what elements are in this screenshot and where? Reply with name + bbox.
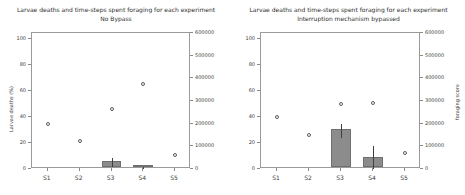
chart-title-block-left: Larvae deaths and time-steps spent forag…	[0, 5, 232, 23]
plot-area-left	[31, 32, 190, 168]
data-point-s1	[275, 115, 279, 119]
x-tick-label-s4: S4	[362, 174, 382, 181]
y-tick-mark-left	[28, 116, 31, 117]
y-tick-label-right-200000: 200000	[195, 121, 214, 126]
y-tick-mark-right	[190, 145, 193, 146]
y-tick-mark-left	[28, 90, 31, 91]
figure-root: Larvae deaths and time-steps spent forag…	[0, 0, 465, 195]
x-tick-label-s5: S5	[164, 174, 184, 181]
y-tick-mark-right	[190, 32, 193, 33]
x-tick-label-s1: S1	[37, 174, 57, 181]
y-tick-label-right-200000: 200000	[425, 121, 444, 126]
y-tick-mark-right	[420, 55, 423, 56]
data-point-s4	[141, 82, 145, 86]
y-tick-label-right-300000: 300000	[425, 98, 444, 103]
y-tick-label-right-400000: 400000	[195, 75, 214, 80]
y-tick-label-left-40: 40	[3, 114, 26, 119]
x-tick-mark	[79, 168, 80, 171]
chart-title-block-right: Larvae deaths and time-steps spent forag…	[232, 5, 465, 23]
error-bar-s4	[373, 146, 374, 169]
y-tick-label-left-100: 100	[232, 36, 255, 41]
data-point-s3	[339, 102, 343, 106]
y-tick-label-left-0: 0	[232, 166, 255, 171]
chart-subtitle-right: Interruption mechanism bypassed	[232, 14, 465, 23]
x-tick-mark	[174, 168, 175, 171]
y-tick-mark-right	[190, 123, 193, 124]
y-tick-mark-right	[420, 145, 423, 146]
y-tick-mark-right	[190, 77, 193, 78]
y-tick-mark-left	[257, 90, 260, 91]
y-tick-label-right-100000: 100000	[195, 143, 214, 148]
error-bar-s4	[143, 167, 144, 169]
data-point-s2	[307, 133, 311, 137]
error-bar-s3	[112, 158, 113, 166]
y-tick-label-right-500000: 500000	[195, 53, 214, 58]
x-tick-mark	[142, 168, 143, 171]
y-tick-label-right-500000: 500000	[425, 53, 444, 58]
plot-inner-left	[32, 33, 189, 167]
plot-inner-right	[261, 33, 419, 167]
x-tick-mark	[276, 168, 277, 171]
y-tick-label-left-60: 60	[3, 88, 26, 93]
chart-panel-no-bypass: Larvae deaths and time-steps spent forag…	[0, 0, 232, 195]
y-tick-mark-left	[257, 168, 260, 169]
y2-axis-label-right: foraging score	[454, 84, 460, 120]
y-tick-label-right-600000: 600000	[195, 30, 214, 35]
y-tick-mark-left	[28, 38, 31, 39]
y-tick-label-left-0: 0	[3, 166, 26, 171]
data-point-s3	[110, 107, 114, 111]
y-tick-mark-left	[257, 38, 260, 39]
y-tick-mark-right	[190, 55, 193, 56]
y-tick-mark-right	[420, 100, 423, 101]
plot-area-right	[260, 32, 420, 168]
y-tick-mark-right	[190, 168, 193, 169]
data-point-s5	[403, 151, 407, 155]
x-tick-mark	[47, 168, 48, 171]
chart-title-right: Larvae deaths and time-steps spent forag…	[232, 5, 465, 14]
chart-title-left: Larvae deaths and time-steps spent forag…	[0, 5, 232, 14]
y-tick-mark-right	[420, 77, 423, 78]
y-tick-label-right-400000: 400000	[425, 75, 444, 80]
y-tick-mark-left	[257, 142, 260, 143]
x-tick-mark	[340, 168, 341, 171]
y-tick-mark-left	[257, 64, 260, 65]
y-tick-label-right-0: 0	[425, 166, 428, 171]
y-tick-mark-right	[420, 32, 423, 33]
data-point-s2	[78, 139, 82, 143]
y-tick-mark-right	[190, 100, 193, 101]
x-tick-label-s1: S1	[266, 174, 286, 181]
y-tick-label-left-100: 100	[3, 36, 26, 41]
y-tick-mark-left	[28, 142, 31, 143]
x-tick-label-s2: S2	[69, 174, 89, 181]
y-tick-label-left-80: 80	[232, 62, 255, 67]
y-tick-label-left-20: 20	[232, 140, 255, 145]
y-tick-label-left-60: 60	[232, 88, 255, 93]
x-tick-label-s3: S3	[330, 174, 350, 181]
y-tick-label-left-80: 80	[3, 62, 26, 67]
x-tick-mark	[111, 168, 112, 171]
x-tick-label-s2: S2	[298, 174, 318, 181]
chart-subtitle-left: No Bypass	[0, 14, 232, 23]
data-point-s5	[173, 153, 177, 157]
y-tick-label-left-20: 20	[3, 140, 26, 145]
x-tick-label-s5: S5	[394, 174, 414, 181]
x-tick-label-s4: S4	[132, 174, 152, 181]
y-tick-label-right-100000: 100000	[425, 143, 444, 148]
x-tick-mark	[308, 168, 309, 171]
y-tick-label-left-40: 40	[232, 114, 255, 119]
y-tick-mark-left	[28, 64, 31, 65]
y-tick-mark-right	[420, 123, 423, 124]
data-point-s1	[46, 122, 50, 126]
y-tick-label-right-300000: 300000	[195, 98, 214, 103]
y-tick-mark-left	[28, 168, 31, 169]
y-tick-mark-right	[420, 168, 423, 169]
error-bar-s3	[341, 124, 342, 138]
chart-panel-bypassed: Larvae deaths and time-steps spent forag…	[232, 0, 465, 195]
x-tick-mark	[372, 168, 373, 171]
y-tick-mark-left	[257, 116, 260, 117]
x-tick-mark	[404, 168, 405, 171]
y-tick-label-right-0: 0	[195, 166, 198, 171]
data-point-s4	[371, 101, 375, 105]
y-tick-label-right-600000: 600000	[425, 30, 444, 35]
x-tick-label-s3: S3	[101, 174, 121, 181]
